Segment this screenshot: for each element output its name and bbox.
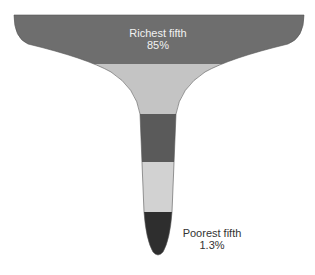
band-fourth — [0, 162, 315, 212]
poorest-label: Poorest fifth 1.3% — [172, 227, 252, 251]
band-third — [0, 114, 315, 162]
richest-value: 85% — [108, 39, 208, 51]
band-poorest — [0, 212, 315, 262]
poorest-name: Poorest fifth — [172, 227, 252, 239]
richest-name: Richest fifth — [108, 27, 208, 39]
band-second — [0, 64, 315, 114]
richest-label: Richest fifth 85% — [108, 27, 208, 51]
poorest-value: 1.3% — [172, 239, 252, 251]
